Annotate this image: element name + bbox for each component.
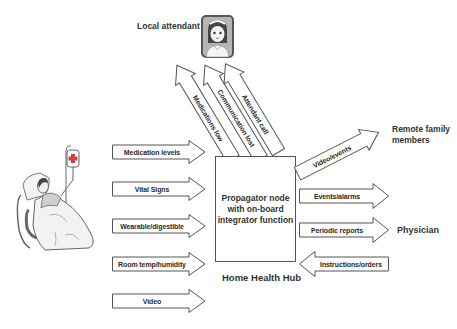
- remote-family-label: Remote family members: [392, 124, 450, 146]
- local-attendant-label: Local attendant: [137, 21, 200, 31]
- arrow-label: Periodic reports: [299, 217, 375, 243]
- input-label: Room temp/humidity: [112, 252, 192, 276]
- input-arrow-vital-signs: Vital Signs: [112, 177, 206, 201]
- hub-line-1: Propagator node: [221, 193, 289, 203]
- input-label: Wearable/digestible: [112, 214, 192, 238]
- input-arrow-medication-levels: Medication levels: [112, 140, 206, 164]
- arrow-video-events: Video/events: [292, 121, 385, 184]
- arrow-label: Instructions/orders: [313, 251, 389, 277]
- arrow-instructions-orders: Instructions/orders: [299, 251, 389, 277]
- arrow-label: Events/alarms: [299, 183, 375, 209]
- hub-line-2: with on-board: [227, 204, 283, 214]
- physician-label: Physician: [397, 225, 439, 235]
- input-label: Video: [112, 289, 192, 313]
- remote-family-line-2: members: [392, 135, 450, 146]
- input-arrow-video: Video: [112, 289, 206, 313]
- input-label: Medication levels: [112, 140, 192, 164]
- input-arrow-room-temp-humidity: Room temp/humidity: [112, 252, 206, 276]
- patient-in-bed-icon: [5, 140, 105, 255]
- remote-family-line-1: Remote family: [392, 124, 450, 135]
- arrow-label: Video/events: [292, 128, 372, 185]
- nurse-avatar-icon: [201, 15, 234, 58]
- arrow-events-alarms: Events/alarms: [299, 183, 389, 209]
- hub-caption: Home Health Hub: [222, 272, 301, 283]
- input-label: Vital Signs: [112, 177, 192, 201]
- input-arrow-wearable-digestible: Wearable/digestible: [112, 214, 206, 238]
- propagator-node-box: Propagator node with on-board integrator…: [215, 156, 296, 262]
- hub-line-3: integrator function: [218, 215, 294, 225]
- arrow-periodic-reports: Periodic reports: [299, 217, 389, 243]
